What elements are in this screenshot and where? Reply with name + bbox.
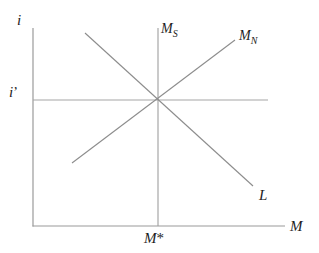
asterisk-mark: * (157, 230, 165, 246)
nominal-money-demand-curve (72, 40, 235, 163)
prime-mark: ’ (13, 85, 18, 100)
money-supply-letter: M (161, 21, 173, 36)
money-demand-subscript: N (251, 35, 258, 46)
liquidity-preference-label: L (259, 188, 267, 203)
diagram-canvas (0, 0, 319, 253)
money-market-diagram: i M i’ MS MN L M* (0, 0, 319, 253)
y-axis-label: i (17, 13, 21, 28)
equilibrium-money-label: M* (144, 231, 164, 246)
x-axis-label: M (290, 219, 303, 234)
money-supply-label: MS (161, 22, 178, 39)
equilibrium-rate-label: i’ (9, 85, 18, 100)
equilibrium-money-letter: M (144, 230, 157, 246)
money-supply-subscript: S (173, 28, 178, 39)
liquidity-preference-curve (85, 33, 253, 186)
money-demand-label: MN (239, 29, 257, 46)
money-demand-letter: M (239, 28, 251, 43)
